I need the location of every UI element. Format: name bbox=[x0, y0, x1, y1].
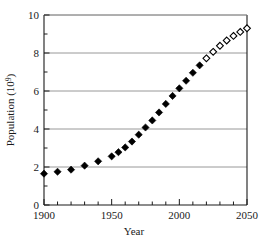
y-tick-label-8: 8 bbox=[34, 47, 40, 59]
x-tick-label-2000: 2000 bbox=[168, 209, 191, 221]
y-tick-label-4: 4 bbox=[34, 123, 40, 135]
y-axis-title-base: Population (10 bbox=[4, 81, 17, 147]
x-tick-label-2050: 2050 bbox=[236, 209, 259, 221]
chart-canvas: 1900195020002050 0246810 Year Population… bbox=[0, 0, 269, 248]
x-tick-label-1950: 1950 bbox=[101, 209, 124, 221]
x-axis-title: Year bbox=[124, 225, 145, 237]
y-tick-label-6: 6 bbox=[34, 85, 40, 97]
y-tick-label-10: 10 bbox=[28, 9, 40, 21]
population-chart-figure: 1900195020002050 0246810 Year Population… bbox=[0, 0, 269, 248]
y-axis-title: Population (109) bbox=[4, 73, 18, 146]
y-tick-label-0: 0 bbox=[34, 199, 40, 211]
y-tick-label-2: 2 bbox=[34, 161, 40, 173]
y-axis-title-closing-paren: ) bbox=[4, 73, 17, 77]
